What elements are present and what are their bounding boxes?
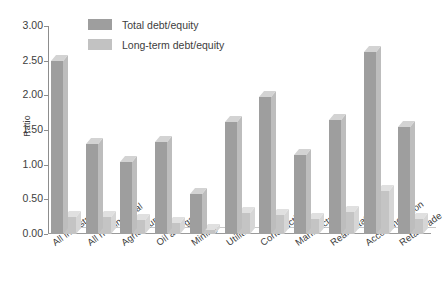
bar-front-face: [120, 162, 132, 234]
bar: [86, 144, 98, 234]
y-tick-label: 0.50: [3, 193, 43, 204]
bar: [190, 194, 202, 234]
bar-front-face: [155, 142, 167, 234]
bar-group: [225, 26, 260, 234]
bar-group: [120, 26, 155, 234]
bar: [294, 155, 306, 234]
bar-side-face: [63, 55, 68, 234]
y-tick-label: 2.50: [3, 55, 43, 66]
bar: [364, 52, 376, 234]
bar-front-face: [398, 127, 410, 234]
bar-group: [190, 26, 225, 234]
bar-side-face: [202, 188, 207, 234]
bar-front-face: [225, 122, 237, 234]
y-tick-label: 3.00: [3, 20, 43, 31]
y-tick-label: 1.50: [3, 124, 43, 135]
bar-group: [398, 26, 433, 234]
y-tick-label: 1.00: [3, 159, 43, 170]
bar: [329, 120, 341, 234]
bar-front-face: [86, 144, 98, 234]
bar-front-face: [190, 194, 202, 234]
bar-side-face: [341, 114, 346, 234]
bar: [225, 122, 237, 234]
bar-group: [259, 26, 294, 234]
bar-side-face: [389, 185, 394, 234]
bar-side-face: [167, 137, 172, 234]
bar: [51, 61, 63, 234]
bar-front-face: [364, 52, 376, 234]
bar-group: [329, 26, 364, 234]
bar-front-face: [294, 155, 306, 234]
y-axis-ticks: 3.002.502.001.501.000.500.00: [0, 0, 43, 306]
y-tick-label: 0.00: [3, 228, 43, 239]
bar-front-face: [51, 61, 63, 234]
plot-area: [49, 26, 431, 234]
bar-side-face: [306, 149, 311, 234]
bar-group: [51, 26, 86, 234]
bar-side-face: [410, 121, 415, 234]
bar: [398, 127, 410, 234]
y-tick-label: 2.00: [3, 89, 43, 100]
bar-side-face: [271, 91, 276, 234]
bar-side-face: [98, 138, 103, 234]
bar-side-face: [376, 46, 381, 234]
y-tick-mark: [44, 234, 48, 235]
bar: [155, 142, 167, 234]
bar-group: [294, 26, 329, 234]
bar: [259, 97, 271, 234]
bar-side-face: [237, 116, 242, 234]
bar-group: [364, 26, 399, 234]
bar-group: [155, 26, 190, 234]
bar: [120, 162, 132, 234]
bar-front-face: [329, 120, 341, 234]
bar-side-face: [132, 156, 137, 234]
bar-group: [86, 26, 121, 234]
bar-front-face: [259, 97, 271, 234]
